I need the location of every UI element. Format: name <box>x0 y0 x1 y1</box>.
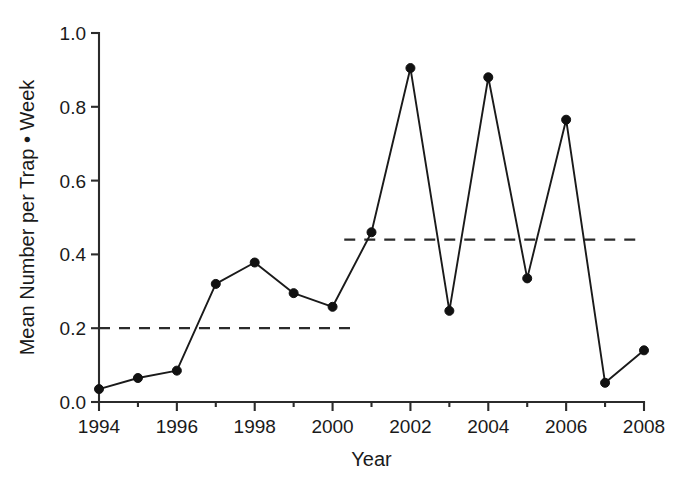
data-point <box>289 289 298 298</box>
y-tick-label: 0.6 <box>60 171 86 192</box>
x-tick-label: 1998 <box>234 416 276 437</box>
data-point <box>523 274 532 283</box>
x-tick-label: 2002 <box>389 416 431 437</box>
data-point <box>250 258 259 267</box>
y-tick-label: 0.0 <box>60 392 86 413</box>
data-point <box>367 228 376 237</box>
y-tick-label: 0.8 <box>60 97 86 118</box>
chart-canvas: 0.00.20.40.60.81.0 199419961998200020022… <box>0 0 684 488</box>
data-point <box>640 346 649 355</box>
data-point <box>406 64 415 73</box>
y-tick-label: 1.0 <box>60 23 86 44</box>
data-point <box>562 115 571 124</box>
data-point <box>211 279 220 288</box>
reference-lines <box>99 240 644 329</box>
data-point <box>445 306 454 315</box>
y-axis-ticks <box>91 33 99 402</box>
x-tick-label: 2000 <box>311 416 353 437</box>
line-chart: 0.00.20.40.60.81.0 199419961998200020022… <box>0 0 684 488</box>
x-axis-ticks <box>99 402 644 411</box>
data-series-points <box>95 64 649 394</box>
x-tick-label: 1994 <box>78 416 121 437</box>
y-axis-title: Mean Number per Trap • Week <box>16 79 38 356</box>
data-point <box>328 302 337 311</box>
x-axis-tick-labels: 19941996199820002002200420062008 <box>78 416 665 437</box>
y-axis-tick-labels: 0.00.20.40.60.81.0 <box>60 23 87 413</box>
data-point <box>95 385 104 394</box>
x-tick-label: 2008 <box>623 416 665 437</box>
data-point <box>172 366 181 375</box>
x-axis-title: Year <box>351 448 392 470</box>
x-tick-label: 2006 <box>545 416 587 437</box>
x-tick-label: 2004 <box>467 416 510 437</box>
data-point <box>601 378 610 387</box>
data-point <box>484 73 493 82</box>
data-point <box>133 374 142 383</box>
y-tick-label: 0.4 <box>60 244 87 265</box>
y-tick-label: 0.2 <box>60 318 86 339</box>
x-tick-label: 1996 <box>156 416 198 437</box>
